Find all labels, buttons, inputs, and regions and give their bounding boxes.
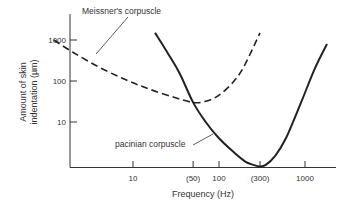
x-ticks: 10(50)100(300)1000 (129, 161, 315, 183)
x-tick-label: (300) (251, 174, 270, 183)
series-layer (54, 33, 327, 167)
y-ticks: 101001000 (48, 36, 77, 127)
annotations: Meissner's corpuscle pacinian corpuscle (82, 6, 213, 149)
x-tick-label: 10 (129, 174, 138, 183)
y-tick-label: 100 (53, 77, 67, 86)
x-axis-title: Frequency (Hz) (172, 189, 234, 199)
y-tick-label: 10 (57, 118, 66, 127)
x-tick-label: 100 (212, 174, 226, 183)
x-tick-label: (50) (186, 174, 201, 183)
annotation-meissner-label: Meissner's corpuscle (82, 6, 161, 16)
chart: 10(50)100(300)1000 101001000 Meissner's … (0, 0, 350, 209)
annotation-pacinian-label: pacinian corpuscle (115, 139, 186, 149)
x-tick-label: 1000 (296, 174, 314, 183)
y-axis-title-line-2: indentation (µm) (29, 59, 39, 124)
y-axis-title-line-1: Amount of skin (18, 62, 28, 122)
y-axis-title: Amount of skin indentation (µm) (18, 59, 39, 124)
axes (70, 14, 336, 168)
series-meissner-line (54, 33, 260, 103)
y-tick-label: 1000 (48, 36, 66, 45)
annotation-meissner-leader (96, 17, 128, 54)
annotation-pacinian-leader (193, 134, 213, 145)
